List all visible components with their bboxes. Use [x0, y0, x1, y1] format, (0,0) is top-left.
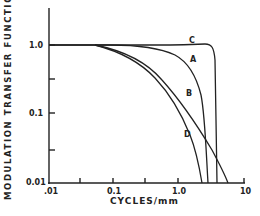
curve-label-c: C	[189, 36, 195, 45]
x-tick-label: .01	[44, 187, 58, 196]
curve-d	[95, 45, 202, 183]
curve-a	[49, 45, 208, 183]
y-tick-label: 0.01	[26, 178, 46, 187]
curve-b	[95, 45, 228, 183]
x-tick-label: 10	[240, 187, 251, 196]
curves	[49, 44, 228, 183]
curve-c	[49, 44, 217, 183]
y-axis-label: MODULATION TRANSFER FUNCTION	[3, 0, 13, 200]
y-tick-label: 0.1	[29, 109, 43, 118]
y-tick-label: 1.0	[29, 41, 43, 50]
curve-label-a: A	[190, 55, 196, 64]
x-tick-label: 0.1	[107, 187, 121, 196]
x-axis-label: CYCLES/mm	[110, 196, 179, 206]
curve-label-b: B	[186, 89, 192, 98]
curve-label-d: D	[184, 130, 191, 139]
x-tick-label: 1.0	[172, 187, 186, 196]
